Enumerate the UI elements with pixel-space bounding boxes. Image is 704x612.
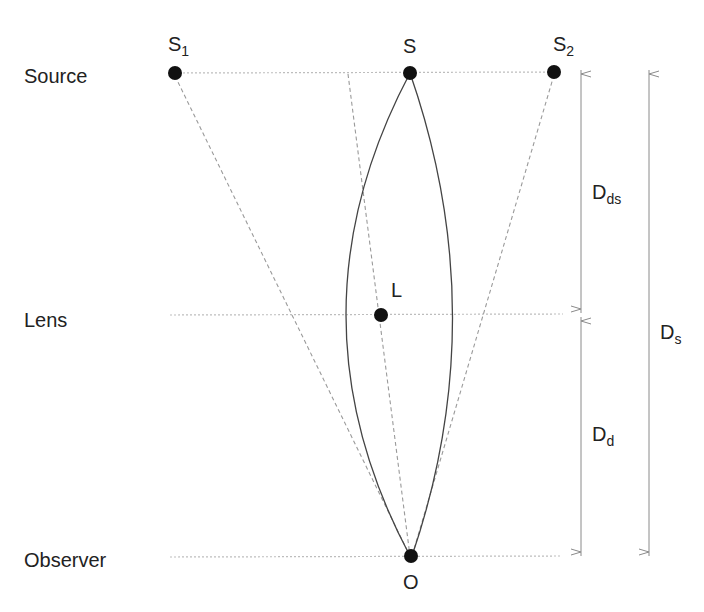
label-dds: Dds [592,182,621,202]
lens-plane-line [170,314,563,315]
observer-plane-line [170,556,562,557]
label-source: Source [24,66,87,86]
point-s [403,66,417,80]
label-s1: S1 [168,34,189,54]
point-o [404,549,418,563]
point-s2 [547,65,561,79]
label-lens: Lens [24,310,67,330]
label-l: L [391,280,402,300]
label-dd: Dd [592,424,614,444]
label-s: S [403,36,416,56]
label-o: O [403,572,419,592]
label-s2: S2 [553,34,574,54]
point-s1 [168,66,182,80]
point-l [374,308,388,322]
label-observer: Observer [24,550,106,570]
label-ds: Ds [660,322,681,342]
lensing-diagram-canvas [0,0,704,612]
source-plane-line [175,72,556,73]
